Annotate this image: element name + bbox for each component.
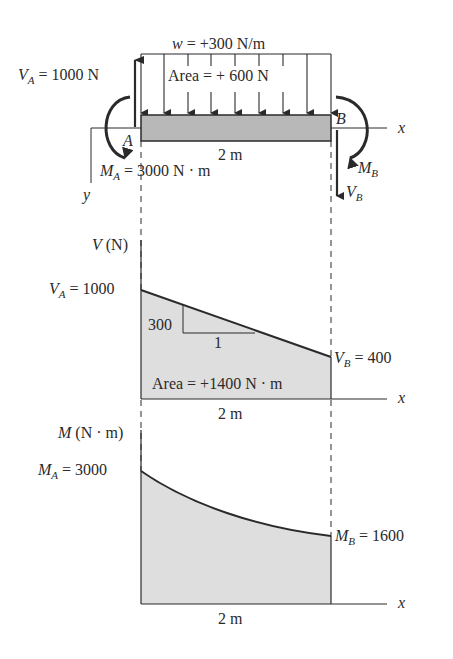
moment-ma-label: MA = 3000 xyxy=(38,462,107,478)
shear-va-label: VA = 1000 xyxy=(49,281,115,297)
moment-length-label: 2 m xyxy=(218,611,242,627)
slope-rise-label: 300 xyxy=(148,317,172,333)
fbd-x-axis-label: x xyxy=(398,120,405,136)
fbd-length-label: 2 m xyxy=(218,147,242,163)
shear-axis-label: V (N) xyxy=(92,237,128,253)
shear-area-label: Area = +1400 N · m xyxy=(152,376,282,392)
mb-moment-label: MB xyxy=(358,160,378,176)
ma-moment-label: MA = 3000 N · m xyxy=(100,163,210,179)
load-area-label: Area = + 600 N xyxy=(167,68,270,84)
shear-vb-label: VB = 400 xyxy=(334,350,392,366)
point-a-label: A xyxy=(123,133,133,149)
vb-reaction-label: VB xyxy=(346,184,363,200)
va-reaction-label: VA = 1000 N xyxy=(18,67,99,83)
moment-area xyxy=(141,471,331,604)
beam-diagram-canvas xyxy=(0,0,453,659)
moment-mb-label: MB = 1600 xyxy=(335,528,404,544)
load-intensity-label: w = +300 N/m xyxy=(172,36,265,52)
shear-length-label: 2 m xyxy=(218,406,242,422)
beam xyxy=(141,115,331,141)
moment-x-axis-label: x xyxy=(398,595,405,611)
slope-run-label: 1 xyxy=(214,335,222,351)
fbd-y-axis-label: y xyxy=(83,187,90,203)
shear-x-axis-label: x xyxy=(398,390,405,406)
moment-diagram xyxy=(141,430,387,604)
point-b-label: B xyxy=(336,111,346,127)
moment-axis-label: M (N · m) xyxy=(58,425,123,441)
